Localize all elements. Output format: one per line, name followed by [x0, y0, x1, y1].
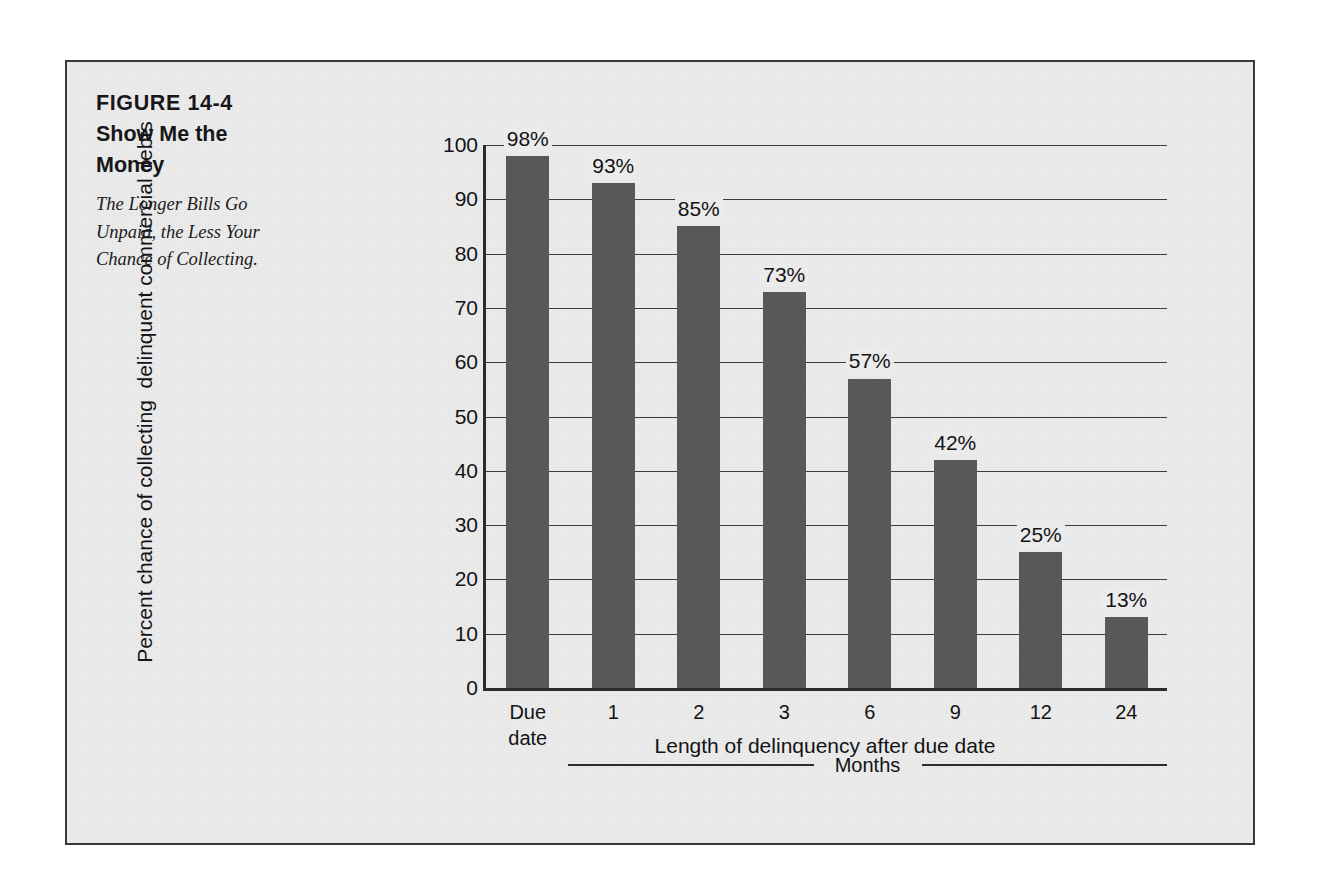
bar	[934, 460, 977, 688]
x-axis-line	[483, 688, 1167, 691]
months-bracket-line-right	[922, 764, 1167, 766]
bar-value-label: 57%	[846, 349, 894, 373]
x-category-label: 24	[1115, 700, 1137, 726]
y-tick-label: 10	[408, 622, 478, 646]
bar	[763, 292, 806, 688]
bar	[848, 379, 891, 689]
figure-panel: FIGURE 14-4 Show Me the Money The Longer…	[65, 60, 1255, 845]
y-tick-label: 90	[408, 187, 478, 211]
bar-value-label: 25%	[1017, 523, 1065, 547]
bar-value-label: 13%	[1102, 588, 1150, 612]
gridline	[486, 525, 1167, 526]
figure-number: FIGURE 14-4	[96, 89, 331, 117]
x-category-label: 12	[1030, 700, 1052, 726]
gridline	[486, 145, 1167, 146]
gridline	[486, 254, 1167, 255]
bar-value-label: 42%	[931, 431, 979, 455]
bar-value-label: 85%	[675, 197, 723, 221]
y-tick-label: 20	[408, 567, 478, 591]
y-tick-label: 80	[408, 242, 478, 266]
x-category-label: 6	[864, 700, 875, 726]
bar	[677, 226, 720, 688]
bar	[592, 183, 635, 688]
x-axis-title: Length of delinquency after due date	[483, 734, 1167, 758]
months-bracket-line-left	[568, 764, 814, 766]
gridline	[486, 634, 1167, 635]
gridline	[486, 471, 1167, 472]
gridline	[486, 417, 1167, 418]
y-tick-label: 50	[408, 405, 478, 429]
figure-title: Show Me the Money	[96, 119, 271, 180]
y-tick-label: 0	[408, 676, 478, 700]
y-tick-label: 60	[408, 350, 478, 374]
figure-caption-block: FIGURE 14-4 Show Me the Money The Longer…	[96, 89, 331, 273]
x-category-label: 3	[779, 700, 790, 726]
y-tick-label: 70	[408, 296, 478, 320]
y-tick-label: 40	[408, 459, 478, 483]
bar-value-label: 98%	[504, 127, 552, 151]
y-tick-label: 30	[408, 513, 478, 537]
bar-value-label: 73%	[760, 263, 808, 287]
y-tick-label: 100	[408, 133, 478, 157]
x-category-label: 2	[693, 700, 704, 726]
x-category-label: 9	[950, 700, 961, 726]
bar	[506, 156, 549, 688]
plot-area: 0102030405060708090100 98%93%85%73%57%42…	[483, 138, 1167, 690]
gridline	[486, 199, 1167, 200]
gridline	[486, 579, 1167, 580]
y-axis-line	[483, 145, 486, 690]
figure-subtitle: The Longer Bills Go Unpaid, the Less You…	[96, 191, 296, 273]
gridline	[486, 308, 1167, 309]
bar	[1105, 617, 1148, 688]
gridline	[486, 362, 1167, 363]
bar-value-label: 93%	[589, 154, 637, 178]
x-category-label: 1	[608, 700, 619, 726]
bar	[1019, 552, 1062, 688]
